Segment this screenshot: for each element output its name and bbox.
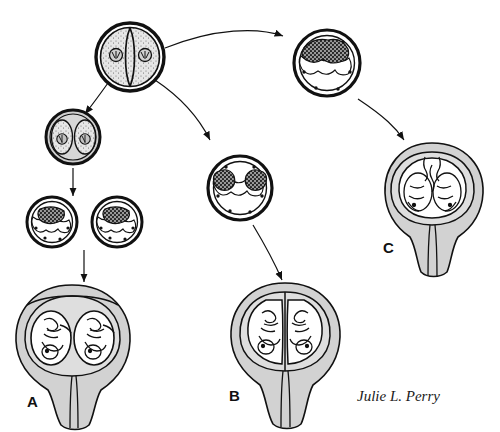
panel-A-twin-gestation: A (16, 285, 130, 430)
stage-zygote-two-cell (96, 23, 164, 91)
arrow-blastocyst-two-icm-to-fetus-B (253, 225, 282, 280)
stage-blastocyst-two-icm (208, 156, 272, 220)
panel-label-A: A (27, 393, 38, 410)
panel-label-C: C (383, 239, 394, 256)
panel-C-twin-gestation: C (383, 143, 483, 277)
stage-blastocyst-one-icm (294, 30, 360, 96)
arrow-zygote-to-blastocyst-one-icm (165, 31, 283, 48)
stage-two-blastocysts (27, 197, 142, 247)
arrow-blastocyst-one-icm-to-fetus-C (358, 99, 404, 140)
blastocyst-left-1 (27, 197, 77, 247)
blastocyst-left-2 (92, 197, 142, 247)
panel-B-twin-gestation: B (229, 283, 340, 429)
arrow-zygote-to-blastomeres (85, 83, 108, 114)
panel-label-B: B (229, 387, 240, 404)
stage-separated-blastomeres (46, 110, 100, 164)
twinning-diagram: A B (0, 0, 500, 432)
artist-signature: Julie L. Perry (357, 388, 440, 404)
arrow-zygote-to-blastocyst-two-icm (155, 80, 210, 140)
